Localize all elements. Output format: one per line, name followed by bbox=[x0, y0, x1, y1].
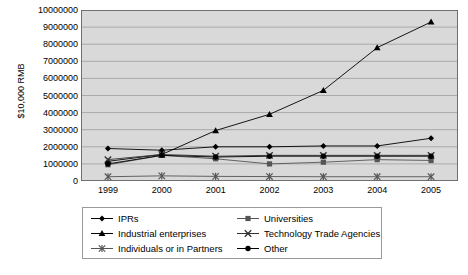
x-tick-label: 2004 bbox=[367, 186, 387, 195]
legend-item-label: Technology Trade Agencies bbox=[264, 229, 380, 239]
legend-item: Universities bbox=[235, 211, 380, 226]
y-tick-label: 5000000 bbox=[43, 92, 78, 101]
chart-svg bbox=[81, 10, 458, 181]
legend-item-label: Individuals or in Partners bbox=[118, 244, 223, 254]
legend-marker-icon bbox=[89, 242, 115, 255]
chart-legend: IPRsIndustrial enterprisesIndividuals or… bbox=[82, 207, 382, 259]
data-point-marker bbox=[267, 161, 272, 166]
y-tick-label: 9000000 bbox=[43, 23, 78, 32]
y-tick-label: 4000000 bbox=[43, 109, 78, 118]
y-axis-tick-labels: 0100000020000003000000400000050000006000… bbox=[18, 0, 78, 195]
legend-item-label: IPRs bbox=[118, 214, 139, 224]
y-tick-label: 3000000 bbox=[43, 126, 78, 135]
legend-item: Industrial enterprises bbox=[89, 226, 223, 241]
legend-item-label: Universities bbox=[264, 214, 313, 224]
data-point-marker bbox=[99, 216, 105, 222]
plot-area bbox=[81, 10, 458, 181]
x-tick-label: 2005 bbox=[421, 186, 441, 195]
legend-item-label: Other bbox=[264, 244, 288, 254]
x-tick-label: 2002 bbox=[259, 186, 279, 195]
chart-figure: $10,000 RMB 0100000020000003000000400000… bbox=[0, 0, 468, 275]
x-tick-label: 1999 bbox=[98, 186, 118, 195]
y-tick-label: 6000000 bbox=[43, 74, 78, 83]
x-axis-tick-labels: 1999200020012002200320042005 bbox=[81, 186, 458, 200]
data-point-marker bbox=[267, 154, 272, 159]
y-tick-label: 2000000 bbox=[43, 143, 78, 152]
legend-marker-icon bbox=[235, 212, 261, 225]
data-point-marker bbox=[375, 154, 380, 159]
legend-marker-icon bbox=[235, 242, 261, 255]
y-tick-label: 7000000 bbox=[43, 57, 78, 66]
legend-item: IPRs bbox=[89, 211, 223, 226]
legend-column-2: UniversitiesTechnology Trade AgenciesOth… bbox=[235, 211, 380, 256]
legend-marker-icon bbox=[235, 227, 261, 240]
legend-item: Other bbox=[235, 241, 380, 256]
y-tick-label: 10000000 bbox=[38, 6, 78, 15]
y-tick-label: 0 bbox=[73, 177, 78, 186]
data-point-marker bbox=[321, 154, 326, 159]
data-point-marker bbox=[428, 154, 433, 159]
x-tick-label: 2000 bbox=[152, 186, 172, 195]
legend-marker-icon bbox=[89, 227, 115, 240]
data-point-marker bbox=[245, 216, 250, 221]
x-tick-label: 2001 bbox=[206, 186, 226, 195]
data-point-marker bbox=[213, 154, 218, 159]
data-point-marker bbox=[321, 160, 326, 165]
legend-item-label: Industrial enterprises bbox=[118, 229, 206, 239]
legend-item: Technology Trade Agencies bbox=[235, 226, 380, 241]
y-tick-label: 8000000 bbox=[43, 40, 78, 49]
y-tick-label: 1000000 bbox=[43, 160, 78, 169]
data-point-marker bbox=[245, 246, 250, 251]
x-tick-label: 2003 bbox=[313, 186, 333, 195]
data-point-marker bbox=[105, 161, 110, 166]
legend-column-1: IPRsIndustrial enterprisesIndividuals or… bbox=[89, 211, 223, 256]
data-point-marker bbox=[159, 153, 164, 158]
legend-marker-icon bbox=[89, 212, 115, 225]
legend-item: Individuals or in Partners bbox=[89, 241, 223, 256]
